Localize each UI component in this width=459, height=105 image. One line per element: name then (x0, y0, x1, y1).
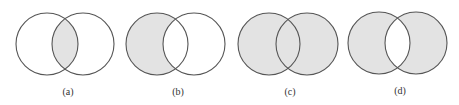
panel-label-c: (c) (284, 86, 295, 98)
venn-panel-a: (a) (16, 13, 114, 98)
venn-panel-b: (b) (126, 13, 225, 98)
panel-label-b: (b) (172, 86, 184, 98)
venn-diagram-figure: (a) (b) (c) (d) (0, 0, 459, 105)
panel-label-d: (d) (394, 85, 406, 97)
venn-panel-d: (d) (348, 12, 447, 97)
venn-panel-c: (c) (238, 13, 338, 98)
panel-label-a: (a) (62, 86, 73, 98)
